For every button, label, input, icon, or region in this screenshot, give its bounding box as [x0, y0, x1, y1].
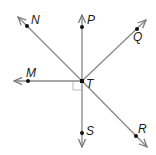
label-vertex: T — [86, 77, 95, 91]
label-p: P — [87, 13, 95, 27]
label-s: S — [86, 124, 94, 138]
point-s — [80, 131, 84, 135]
label-r: R — [138, 122, 147, 136]
label-q: Q — [133, 30, 142, 44]
vertex-point — [80, 79, 84, 83]
point-p — [80, 25, 84, 29]
label-n: N — [31, 13, 40, 27]
rays-figure: NPQMSRT — [0, 0, 156, 155]
geometry-diagram: NPQMSRT — [0, 0, 156, 155]
label-m: M — [26, 66, 36, 80]
point-n — [25, 24, 29, 28]
